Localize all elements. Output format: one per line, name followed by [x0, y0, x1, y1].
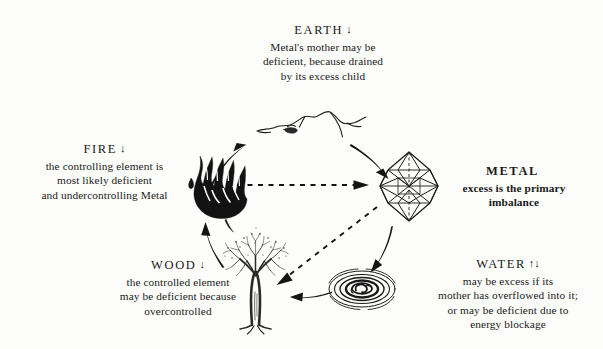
desc-line: imbalance	[434, 195, 594, 209]
element-name-wood-text: WOOD	[151, 258, 196, 272]
desc-line: Metal's mother may be	[223, 40, 423, 54]
label-metal: METAL excess is the primary imbalance	[434, 163, 594, 210]
element-name-earth-text: EARTH	[294, 23, 343, 37]
arrow-fire-to-metal-head	[354, 180, 370, 190]
desc-line: energy blockage	[418, 317, 598, 331]
desc-line: the controlling element is	[12, 159, 197, 173]
deficient-arrow-icon: ↓	[120, 142, 126, 154]
arrow-wood-to-fire-head	[201, 222, 210, 236]
desc-line: and undercontrolling Metal	[12, 188, 197, 202]
element-desc-wood: the controlled element may be deficient …	[88, 275, 268, 318]
desc-line: the controlled element	[88, 275, 268, 289]
element-name-metal: METAL	[434, 163, 594, 179]
deficient-arrow-icon: ↓	[199, 258, 205, 270]
label-wood: WOOD↓ the controlled element may be defi…	[88, 257, 268, 318]
five-element-cycle-diagram: EARTH↓ Metal's mother may be deficient, …	[0, 0, 603, 349]
arrow-water-to-wood-head	[290, 293, 303, 302]
desc-line: most likely deficient	[12, 173, 197, 187]
desc-line: or may be deficient due to	[418, 303, 598, 317]
desc-line: excess is the primary	[434, 181, 594, 195]
deficient-arrow-icon: ↓	[346, 23, 352, 35]
desc-line: may be deficient because	[88, 289, 268, 303]
desc-line: deficient, because drained	[223, 54, 423, 68]
arrow-fire-to-earth-head	[233, 143, 246, 152]
desc-line: by its excess child	[223, 69, 423, 83]
label-earth: EARTH↓ Metal's mother may be deficient, …	[223, 22, 423, 83]
desc-line: overcontrolled	[88, 304, 268, 318]
ripple-icon	[329, 269, 395, 310]
element-name-fire-text: FIRE	[84, 142, 118, 156]
crystal-icon	[380, 152, 438, 221]
element-desc-water: may be excess if its mother has overflow…	[418, 274, 598, 332]
element-desc-earth: Metal's mother may be deficient, because…	[223, 40, 423, 83]
element-name-water: WATER↑↓	[418, 256, 598, 272]
element-name-water-text: WATER	[476, 257, 526, 271]
desc-line: mother has overflowed into it;	[418, 288, 598, 302]
element-name-wood: WOOD↓	[88, 257, 268, 273]
element-name-earth: EARTH↓	[223, 22, 423, 38]
element-desc-fire: the controlling element is most likely d…	[12, 159, 197, 202]
label-water: WATER↑↓ may be excess if its mother has …	[418, 256, 598, 332]
element-name-metal-text: METAL	[486, 164, 539, 178]
mountain-icon	[257, 112, 366, 137]
element-name-fire: FIRE↓	[12, 141, 197, 157]
flame-icon	[189, 156, 247, 232]
arrow-metal-to-wood	[288, 207, 377, 276]
excess-or-deficient-arrow-icon: ↑↓	[529, 257, 540, 269]
label-fire: FIRE↓ the controlling element is most li…	[12, 141, 197, 202]
element-desc-metal: excess is the primary imbalance	[434, 181, 594, 210]
desc-line: may be excess if its	[418, 274, 598, 288]
